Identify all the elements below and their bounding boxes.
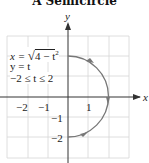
y-tick-label: −1 — [51, 112, 63, 124]
x-tick-label: −2 — [16, 101, 28, 113]
y-axis-arrow-icon — [65, 22, 71, 30]
y-axis-label: y — [64, 10, 70, 22]
direction-arrow-icon — [80, 132, 88, 137]
x-tick-label: −1 — [38, 101, 50, 113]
x-tick-label: 1 — [86, 101, 92, 113]
x-axis-label: x — [142, 91, 148, 103]
y-tick-label: −2 — [51, 132, 63, 144]
parameter-range: −2 ≤ t ≤ 2 — [10, 72, 53, 84]
equation-y: y = t — [10, 60, 30, 72]
x-axis-arrow-icon — [133, 94, 141, 100]
axes — [0, 24, 140, 163]
